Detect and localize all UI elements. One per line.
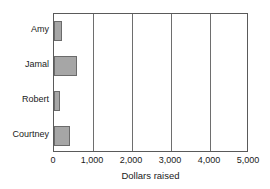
x-tick-label: 3,000 [159,155,182,165]
bar [54,21,62,41]
gridline [210,14,211,151]
category-label: Courtney [0,129,49,139]
gridline [171,14,172,151]
category-label: Robert [0,94,49,104]
bar [54,126,70,146]
x-tick-label: 1,000 [81,155,104,165]
category-label: Jamal [0,59,49,69]
bar-chart-figure: AmyJamalRobertCourtney 01,0002,0003,0004… [0,0,270,189]
bar [54,56,77,76]
x-tick-label: 0 [50,155,55,165]
x-tick-label: 4,000 [198,155,221,165]
plot-area [53,13,248,152]
gridline [132,14,133,151]
x-tick-label: 2,000 [120,155,143,165]
x-tick-label: 5,000 [237,155,260,165]
bar [54,91,60,111]
gridline [93,14,94,151]
x-axis-title: Dollars raised [53,170,248,181]
category-label: Amy [0,24,49,34]
